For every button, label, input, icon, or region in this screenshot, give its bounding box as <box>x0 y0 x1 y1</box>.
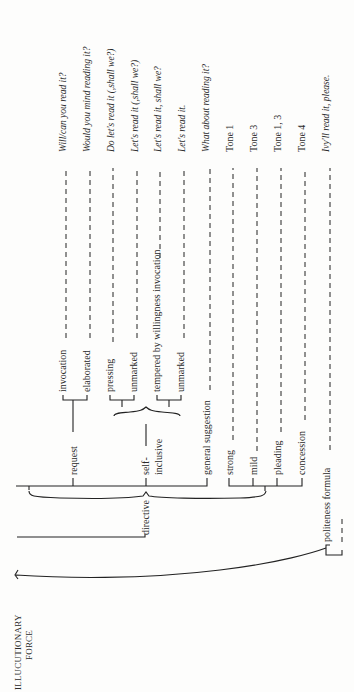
diagram-canvas: ILLUCUTIONARY FORCE directive request in… <box>0 0 354 692</box>
example-4: Let's read it (,shall we?) <box>130 60 141 153</box>
example-6: Let's read it. <box>177 105 187 153</box>
self-inclusive-brace <box>114 407 180 416</box>
request-bracket <box>63 395 87 400</box>
root-brace <box>15 548 326 579</box>
node-pleading: pleading <box>272 441 283 475</box>
node-self: self- <box>140 457 151 475</box>
node-unmarked-2: unmarked <box>175 352 186 392</box>
politeness-bracket <box>326 545 342 555</box>
node-strong: strong <box>224 450 235 475</box>
root-label-line2: FORCE <box>24 630 34 660</box>
node-directive: directive <box>140 499 151 535</box>
directive-brace <box>29 491 266 498</box>
leader-lines <box>66 168 330 451</box>
tempered-unmarked-bracket <box>157 395 181 407</box>
node-invocation: invocation <box>57 350 68 392</box>
example-8: Tone 1 <box>224 125 235 152</box>
system-network-diagram: ILLUCUTIONARY FORCE directive request in… <box>0 0 354 692</box>
node-general-suggestion: general suggestion <box>201 400 212 475</box>
node-politeness-formula: politeness formula <box>321 467 332 542</box>
node-concession: concession <box>296 431 307 475</box>
example-1: Will/can you read it? <box>58 72 68 152</box>
example-10: Tone 1, 3 <box>272 115 283 152</box>
node-request: request <box>68 446 79 475</box>
root-label-line1: ILLUCUTIONARY <box>13 614 23 690</box>
node-tempered: tempered by willingness invocation <box>151 250 162 392</box>
example-2: Would you mind reading it? <box>82 46 92 152</box>
root-to-directive-line <box>17 534 145 537</box>
example-7: What about reading it? <box>201 64 211 152</box>
node-inclusive: inclusive <box>153 438 164 475</box>
node-unmarked-1: unmarked <box>128 352 139 392</box>
examples-column: Will/can you read it? Would you mind rea… <box>58 46 331 153</box>
directive-branch-bar <box>16 478 207 486</box>
node-elaborated: elaborated <box>81 350 92 392</box>
node-mild: mild <box>248 457 259 475</box>
example-9: Tone 3 <box>248 125 259 152</box>
tone-branch-bar <box>229 478 302 491</box>
pressing-unmarked-bracket <box>110 395 134 407</box>
root-label: ILLUCUTIONARY FORCE <box>13 614 34 690</box>
node-pressing: pressing <box>104 359 115 392</box>
example-5: Let's read it, shall we? <box>153 66 163 153</box>
example-11: Tone 4 <box>296 125 307 152</box>
example-12: Ivy'll read it, please. <box>321 75 331 153</box>
example-3: Do let's read it (,shall we?) <box>106 48 117 153</box>
